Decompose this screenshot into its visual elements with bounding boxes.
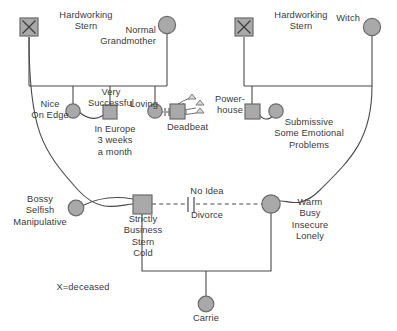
- node-father[interactable]: [133, 195, 152, 214]
- genogram-canvas: Hardworking Stern Normal Grandmother Har…: [0, 0, 397, 331]
- label-child-carrie: Carrie: [182, 313, 230, 324]
- node-uncle-deadbeat[interactable]: [170, 104, 185, 119]
- note-uncle-very-successful: In Europe 3 weeks a month: [84, 124, 146, 158]
- label-divorce-top: No Idea: [187, 186, 227, 197]
- conflict-triangle-2: [196, 100, 204, 105]
- label-father-prior-partner: Bossy Selfish Manipulative: [10, 194, 70, 228]
- label-divorce-bottom: Divorce: [187, 210, 227, 221]
- label-aunt-loving: Loving: [124, 99, 158, 110]
- node-maternal-grandmother[interactable]: [363, 18, 380, 35]
- label-maternal-grandmother: Witch: [310, 13, 360, 24]
- label-paternal-grandmother: Normal Grandmother: [60, 25, 156, 48]
- label-uncle-deadbeat: Deadbeat: [167, 122, 225, 133]
- node-father-prior-partner[interactable]: [68, 200, 84, 216]
- node-uncle-powerhouse[interactable]: [245, 104, 260, 119]
- label-uncle-powerhouse: Power- house: [213, 94, 247, 117]
- conflict-triangle-3: [196, 108, 204, 113]
- legend-deceased: X=deceased: [38, 282, 128, 293]
- conflict-triangle-1: [188, 94, 196, 99]
- node-child-carrie[interactable]: [198, 296, 214, 312]
- node-shapes-layer: [20, 16, 381, 311]
- couple-link-nice-very-successful: [78, 111, 105, 118]
- label-aunt-nice: Nice On Edge: [27, 99, 73, 122]
- label-mother: Warm Busy Insecure Lonely: [282, 197, 338, 243]
- node-mother[interactable]: [262, 195, 280, 213]
- label-aunt-submissive: Submissive Some Emotional Problems: [264, 117, 354, 151]
- node-paternal-grandmother[interactable]: [158, 16, 175, 33]
- label-father: Strictly Business Stern Cold: [112, 214, 174, 260]
